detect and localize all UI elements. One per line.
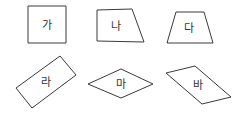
shape-ra: 라 xyxy=(16,56,76,108)
shape-ma: 마 xyxy=(88,69,153,98)
shape-label: 라 xyxy=(41,76,51,89)
shape-label: 다 xyxy=(184,22,194,35)
shape-ga: 가 xyxy=(28,6,66,43)
shape-ba: 바 xyxy=(166,66,231,104)
shape-label: 바 xyxy=(193,79,203,92)
shape-na: 나 xyxy=(97,9,144,42)
shape-label: 마 xyxy=(116,78,126,91)
shape-da: 다 xyxy=(167,12,213,43)
shape-label: 나 xyxy=(111,20,121,33)
shape-label: 가 xyxy=(42,19,52,32)
shapes-figure: 가 나 다 라 마 바 xyxy=(0,0,246,121)
